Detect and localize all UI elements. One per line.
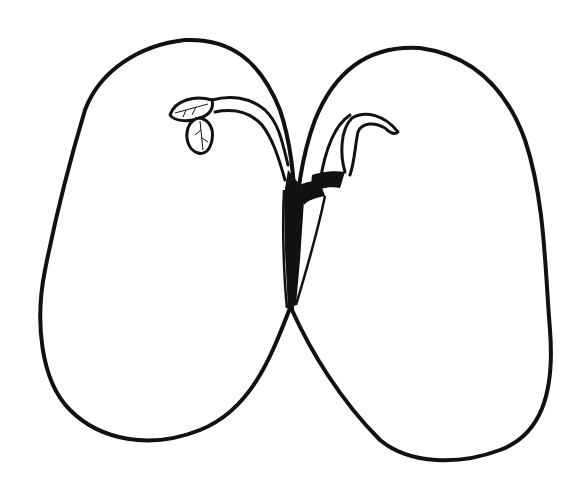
right-cotyledon bbox=[292, 48, 551, 460]
left-cotyledon bbox=[40, 40, 295, 441]
bean-seed-drawing bbox=[0, 0, 584, 477]
bean-seed-diagram bbox=[0, 0, 584, 477]
